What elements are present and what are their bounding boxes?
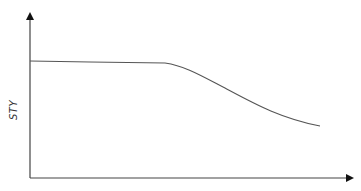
- y-axis-label: STY: [4, 100, 24, 120]
- line-chart: [0, 0, 361, 191]
- sty-curve: [30, 61, 320, 126]
